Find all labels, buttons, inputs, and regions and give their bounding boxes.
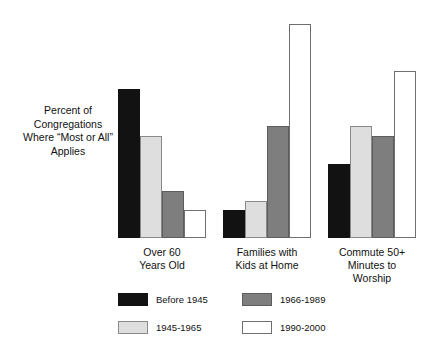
bar[interactable]: 3% xyxy=(223,210,245,238)
legend-label: 1990-2000 xyxy=(280,322,325,333)
chart-legend: Before 1945 1966-1989 1945-1965 1990-200… xyxy=(118,288,358,338)
bar-group: 16%11%5%3% xyxy=(118,0,206,240)
legend-item-before-1945: Before 1945 xyxy=(118,288,234,310)
bar[interactable]: 18% xyxy=(394,71,416,238)
bar-slot: 16% xyxy=(118,0,140,238)
bar[interactable]: 5% xyxy=(162,191,184,238)
bar-slot: 11% xyxy=(372,0,394,238)
bar-slot: 12% xyxy=(267,0,289,238)
category-label: Commute 50+ Minutes to Worship xyxy=(304,246,434,285)
legend-label: Before 1945 xyxy=(156,294,208,305)
bar-slot: 3% xyxy=(184,0,206,238)
legend-item-1990-2000: 1990-2000 xyxy=(242,316,358,338)
bar-slot: 3% xyxy=(223,0,245,238)
bar[interactable]: 11% xyxy=(140,136,162,238)
bar[interactable]: 8% xyxy=(328,164,350,238)
bar[interactable]: 16% xyxy=(118,89,140,238)
bar-slot: 12% xyxy=(350,0,372,238)
bar-slot: 23% xyxy=(289,0,311,238)
legend-label: 1966-1989 xyxy=(280,294,325,305)
legend-swatch-black xyxy=(118,293,148,306)
bar[interactable]: 12% xyxy=(350,126,372,238)
legend-item-1966-1989: 1966-1989 xyxy=(242,288,358,310)
legend-label: 1945-1965 xyxy=(156,322,201,333)
bar-slot: 18% xyxy=(394,0,416,238)
bar-group: 8%12%11%18% xyxy=(328,0,416,240)
bar-slot: 5% xyxy=(162,0,184,238)
bar-slot: 11% xyxy=(140,0,162,238)
plot-area: 16%11%5%3%3%4%12%23%8%12%11%18% xyxy=(0,0,434,240)
legend-item-1945-1965: 1945-1965 xyxy=(118,316,234,338)
bar[interactable]: 12% xyxy=(267,126,289,238)
bar[interactable]: 11% xyxy=(372,136,394,238)
bar-slot: 8% xyxy=(328,0,350,238)
bar[interactable]: 23% xyxy=(289,24,311,238)
legend-swatch-white xyxy=(242,321,272,334)
bar-group: 3%4%12%23% xyxy=(223,0,311,240)
legend-swatch-dark-gray xyxy=(242,293,272,306)
bar[interactable]: 4% xyxy=(245,201,267,238)
bar[interactable]: 3% xyxy=(184,210,206,238)
bar-slot: 4% xyxy=(245,0,267,238)
legend-swatch-light-gray xyxy=(118,321,148,334)
bar-chart: Percent of Congregations Where “Most or … xyxy=(0,0,434,344)
